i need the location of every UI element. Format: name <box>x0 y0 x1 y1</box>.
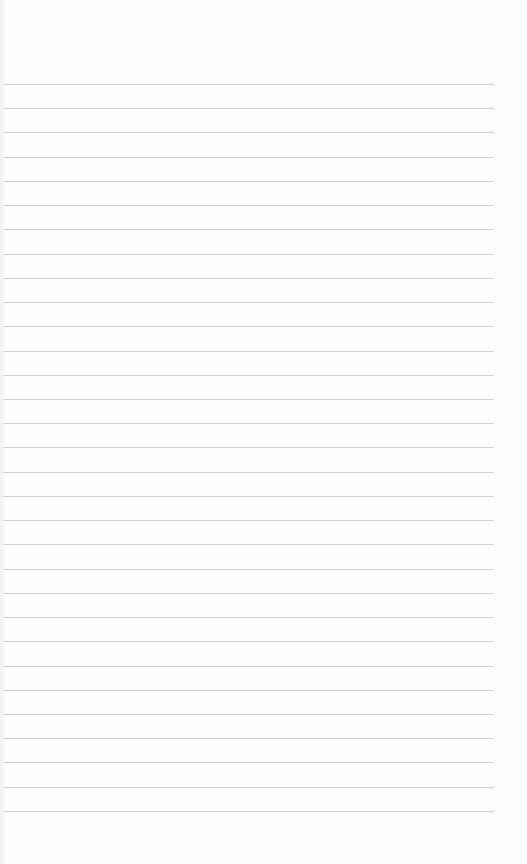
ruled-line <box>3 399 494 400</box>
ruled-line <box>3 666 494 667</box>
ruled-line <box>3 787 494 788</box>
ruled-line <box>3 157 494 158</box>
ruled-line <box>3 762 494 763</box>
ruled-line <box>3 641 494 642</box>
ruled-line <box>3 423 494 424</box>
ruled-line <box>3 278 494 279</box>
ruled-line <box>3 569 494 570</box>
ruled-line <box>3 108 494 109</box>
ruled-line <box>3 447 494 448</box>
ruled-line <box>3 229 494 230</box>
ruled-line <box>3 351 494 352</box>
ruled-line <box>3 132 494 133</box>
ruled-line <box>3 205 494 206</box>
ruled-line <box>3 326 494 327</box>
ruled-line <box>3 593 494 594</box>
ruled-line <box>3 738 494 739</box>
ruled-line <box>3 811 494 812</box>
lined-paper-sheet <box>0 0 527 864</box>
ruled-line <box>3 714 494 715</box>
ruled-line <box>3 181 494 182</box>
ruled-line <box>3 690 494 691</box>
ruled-line <box>3 254 494 255</box>
ruled-line <box>3 472 494 473</box>
ruled-line <box>3 520 494 521</box>
ruled-line <box>3 617 494 618</box>
ruled-line <box>3 84 494 85</box>
left-edge-shadow <box>0 0 6 864</box>
ruled-line <box>3 544 494 545</box>
ruled-line <box>3 302 494 303</box>
ruled-line <box>3 496 494 497</box>
ruled-line <box>3 375 494 376</box>
